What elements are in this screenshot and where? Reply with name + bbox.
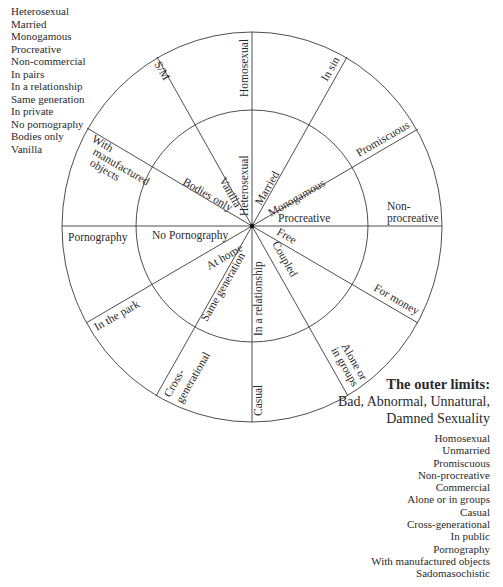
list-item: Commercial — [371, 481, 490, 493]
list-item: Casual — [371, 506, 490, 518]
label-promiscuous: Promiscuous — [354, 118, 412, 158]
label-pornography: Pornography — [68, 231, 128, 244]
list-item: With manufactured objects — [371, 555, 490, 567]
list-item: Non-procreative — [371, 469, 490, 481]
outer-limits-title: The outer limits: — [338, 375, 490, 393]
list-item: Promiscuous — [371, 457, 490, 469]
label-procreative: Procreative — [278, 212, 330, 224]
label-casual: Casual — [252, 385, 264, 416]
outer-limits-subtitle: Bad, Abnormal, Unnatural, — [338, 393, 490, 410]
list-item: Homosexual — [371, 432, 490, 444]
list-item: Unmarried — [371, 444, 490, 456]
list-item: In public — [371, 530, 490, 542]
label-in-sin: In sin — [318, 54, 341, 83]
label-non-procreative-1: Non- — [387, 200, 411, 212]
label-for-money: For money — [372, 281, 422, 317]
label-no-pornography: No Pornography — [152, 229, 229, 242]
outer-limits-list: Homosexual Unmarried Promiscuous Non-pro… — [371, 432, 490, 580]
list-item: Pornography — [371, 543, 490, 555]
list-item: Sadomasochistic — [371, 567, 490, 579]
label-in-a-relationship: In a relationship — [252, 261, 265, 336]
label-homosexual: Homosexual — [238, 39, 250, 97]
list-item: Alone or in groups — [371, 493, 490, 505]
outer-limits-heading: The outer limits: Bad, Abnormal, Unnatur… — [338, 375, 490, 427]
label-coupled: Coupled — [269, 239, 300, 279]
list-item: Cross-generational — [371, 518, 490, 530]
label-heterosexual: Heterosexual — [238, 155, 250, 216]
center-dot — [250, 224, 254, 228]
label-non-procreative-2: procreative — [387, 212, 439, 225]
spoke — [252, 226, 348, 396]
outer-limits-subtitle: Damned Sexuality — [338, 410, 490, 427]
